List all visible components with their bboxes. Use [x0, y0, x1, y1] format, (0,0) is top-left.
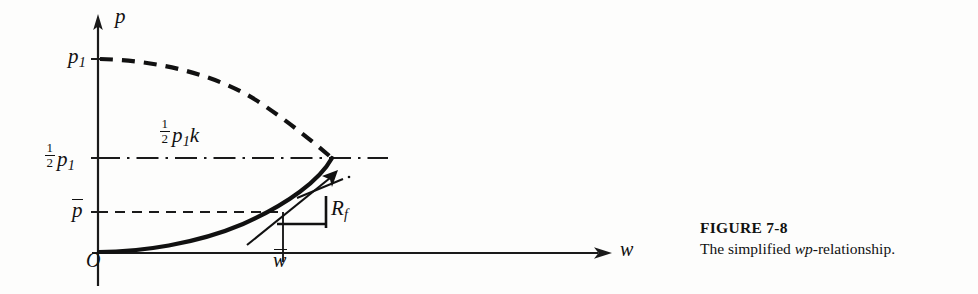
x-tick-label-w-bar: w — [273, 250, 286, 270]
caption-text-prefix: The simplified — [700, 240, 795, 257]
x-axis-label: w — [620, 239, 633, 259]
y-tick-label-p-bar: p — [72, 200, 83, 221]
caption-title: FIGURE 7-8 — [700, 218, 970, 238]
y-tick-label-p1: p1 — [68, 46, 86, 69]
x-axis — [92, 247, 612, 259]
half-p1-k-annotation: 12p1k — [160, 118, 199, 148]
upper-branch-dashed-curve — [100, 59, 332, 158]
origin-label: O — [86, 250, 100, 270]
rf-annotation: Rf — [331, 198, 348, 221]
caption-text: The simplified wp-relationship. — [700, 239, 970, 259]
caption-text-italic: wp — [795, 240, 813, 257]
one-half-fraction: 12 — [45, 141, 55, 169]
figure-container: p p1 12p1 p 12p1k Rf O w w FIGURE 7-8 Th… — [0, 0, 978, 294]
y-tick-label-half-p1: 12p1 — [45, 142, 75, 172]
y-axis-label: p — [115, 6, 126, 27]
y-axis — [93, 14, 103, 286]
one-half-fraction: 12 — [160, 117, 170, 145]
p1-subscript: 1 — [79, 54, 86, 70]
figure-caption: FIGURE 7-8 The simplified wp-relationshi… — [700, 218, 970, 259]
caption-text-suffix: -relationship. — [813, 240, 895, 257]
